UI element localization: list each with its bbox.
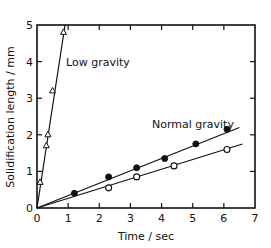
filled-circle-marker (134, 165, 140, 171)
y-tick-label: 3 (26, 92, 33, 105)
y-tick-label: 0 (26, 202, 33, 215)
triangle-marker (45, 131, 51, 137)
x-tick-label: 0 (34, 212, 41, 225)
y-tick-label: 4 (26, 56, 33, 69)
axes-box (37, 25, 255, 208)
x-tick-label: 6 (220, 212, 227, 225)
x-tick-label: 3 (127, 212, 134, 225)
x-axis-label: Time / sec (117, 230, 174, 243)
open-circle-marker (224, 146, 230, 152)
open-circle-marker (171, 163, 177, 169)
open-circle-marker (134, 174, 140, 180)
triangle-marker (60, 29, 66, 35)
plot-frame (37, 25, 255, 208)
y-tick-label: 5 (26, 19, 33, 32)
y-tick-label: 2 (26, 129, 33, 142)
x-tick-label: 1 (65, 212, 72, 225)
solidification-chart: 01234567012345 Low gravity Normal gravit… (0, 0, 271, 248)
open-circle-marker (106, 185, 112, 191)
filled-circle-marker (162, 156, 168, 162)
filled-circle-marker (106, 174, 112, 180)
x-tick-label: 5 (189, 212, 196, 225)
x-tick-label: 4 (158, 212, 165, 225)
data-points (37, 29, 230, 197)
filled-circle-marker (193, 141, 199, 147)
x-tick-label: 2 (96, 212, 103, 225)
y-axis-label: Solidification length / mm (4, 46, 17, 187)
y-tick-label: 1 (26, 165, 33, 178)
annotation-normal-gravity: Normal gravity (152, 118, 234, 131)
x-tick-label: 7 (252, 212, 259, 225)
annotation-low-gravity: Low gravity (66, 56, 130, 69)
fit-lines (37, 25, 243, 208)
triangle-marker (43, 142, 49, 148)
filled-circle-marker (71, 190, 77, 196)
triangle-marker (37, 179, 43, 185)
